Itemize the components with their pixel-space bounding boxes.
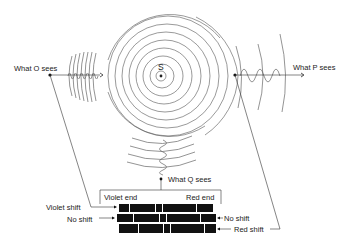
observer-p: What P sees <box>233 63 335 77</box>
sine-q <box>160 140 167 175</box>
source-label: S <box>158 62 164 72</box>
no-shift-left-callout: No shift <box>67 215 115 224</box>
stretched-wavefronts-right <box>236 34 286 112</box>
red-shift-label: Red shift <box>234 225 265 234</box>
what-p-sees-label: What P sees <box>293 63 336 72</box>
violet-shift-label: Violet shift <box>46 203 81 212</box>
no-shift-right-label: No shift <box>224 214 250 223</box>
spectrum-row-no-shift <box>117 214 216 222</box>
violet-end-label: Violet end <box>104 193 137 202</box>
red-shift-callout: Red shift <box>217 225 280 234</box>
source-s: S <box>158 62 164 77</box>
compressed-sine-o <box>68 73 98 79</box>
wavefront-rings <box>108 15 238 137</box>
doppler-diagram: S What O sees What P sees <box>0 0 337 250</box>
what-q-sees-label: What Q sees <box>168 175 212 184</box>
connector-p-to-red-shift <box>235 75 280 229</box>
arrow-left-icon <box>217 217 220 220</box>
no-shift-left-label: No shift <box>67 215 93 224</box>
arrow-right-icon <box>100 73 103 77</box>
connector-o-to-violet-shift <box>50 75 91 207</box>
spectrum-row-red-shift <box>119 224 216 233</box>
arrow-right-icon <box>112 217 115 220</box>
what-o-sees-label: What O sees <box>14 64 58 73</box>
observer-q: What Q sees <box>160 175 212 184</box>
wavefronts-bottom <box>127 136 196 168</box>
violet-shift-callout: Violet shift <box>46 203 117 212</box>
arrow-left-icon <box>217 228 220 231</box>
arrow-right-icon <box>114 206 117 209</box>
spectrum-row-violet-shift <box>119 204 213 212</box>
red-end-label: Red end <box>186 193 214 202</box>
no-shift-right-callout: No shift <box>217 214 250 223</box>
stretched-sine-p <box>240 69 280 82</box>
